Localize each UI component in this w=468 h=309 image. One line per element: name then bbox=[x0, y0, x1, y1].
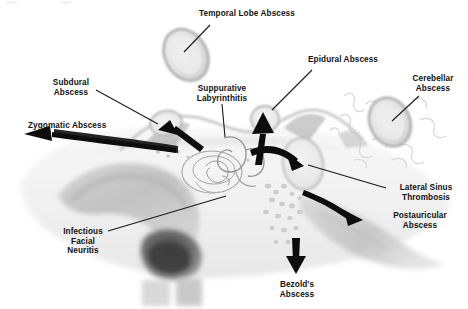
lower-bone-strips bbox=[142, 278, 202, 306]
scan-artifact-right bbox=[61, 1, 71, 4]
label-suppurative-labyrinthitis[interactable]: Suppurative Labyrinthitis bbox=[192, 84, 252, 103]
label-zygomatic-abscess[interactable]: Zygomatic Abscess bbox=[28, 121, 120, 131]
label-subdural-abscess[interactable]: Subdural Abscess bbox=[40, 78, 102, 97]
anatomical-illustration bbox=[0, 0, 468, 309]
subdural-leader bbox=[96, 90, 158, 124]
label-bezolds-abscess[interactable]: Bezold's Abscess bbox=[268, 280, 326, 299]
label-postauricular-abscess[interactable]: Postauricular Abscess bbox=[383, 211, 457, 230]
label-infectious-facial-neuritis[interactable]: Infectious Facial Neuritis bbox=[55, 227, 111, 256]
label-temporal-lobe-abscess[interactable]: Temporal Lobe Abscess bbox=[195, 9, 299, 19]
epidural-leader bbox=[272, 70, 312, 110]
label-epidural-abscess[interactable]: Epidural Abscess bbox=[308, 55, 398, 65]
temporal-lobe-abscess-mass bbox=[155, 21, 217, 88]
cerebellar-abscess-mass bbox=[362, 91, 419, 153]
diagram-canvas: Temporal Lobe Abscess Subdural Abscess Z… bbox=[0, 0, 468, 309]
label-lateral-sinus-thrombosis[interactable]: Lateral Sinus Thrombosis bbox=[388, 183, 464, 202]
scan-artifact-left bbox=[6, 1, 17, 4]
label-cerebellar-abscess[interactable]: Cerebellar Abscess bbox=[404, 74, 462, 93]
